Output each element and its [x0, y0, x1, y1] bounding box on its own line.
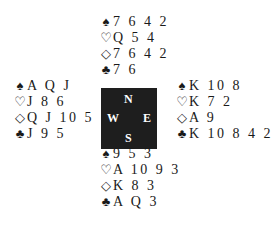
heart-icon: ♡	[14, 94, 26, 110]
club-icon: ♣	[176, 126, 188, 142]
spade-icon: ♠	[176, 78, 188, 94]
diamond-icon: ◇	[176, 110, 188, 126]
diamond-icon: ◇	[14, 110, 26, 126]
compass-east: E	[143, 112, 151, 124]
club-icon: ♣	[14, 126, 26, 142]
compass-west: W	[107, 112, 119, 124]
diamond-icon: ◇	[100, 178, 112, 194]
spade-icon: ♠	[100, 14, 112, 30]
compass-north: N	[124, 93, 133, 105]
heart-icon: ♡	[100, 162, 112, 178]
compass-south: S	[125, 132, 132, 144]
spade-icon: ♠	[100, 146, 112, 162]
diamond-icon: ◇	[100, 46, 112, 62]
club-icon: ♣	[100, 194, 112, 210]
heart-icon: ♡	[176, 94, 188, 110]
spade-icon: ♠	[14, 78, 26, 94]
south-hand: ♠ 9 5 3 ♡ A 10 9 3 ◇ K 8 3 ♣ A Q 3	[100, 146, 200, 212]
compass-box: N W E S	[101, 88, 157, 149]
west-hand: ♠ A Q J ♡ J 8 6 ◇ Q J 10 5 ♣ J 9 5	[14, 78, 104, 144]
east-hand: ♠ K 10 8 ♡ K 7 2 ◇ A 9 ♣ K 10 8 4 2	[176, 78, 278, 144]
north-hand: ♠ 7 6 4 2 ♡ Q 5 4 ◇ 7 6 4 2 ♣ 7 6	[100, 14, 210, 80]
club-icon: ♣	[100, 62, 112, 78]
heart-icon: ♡	[100, 30, 112, 46]
